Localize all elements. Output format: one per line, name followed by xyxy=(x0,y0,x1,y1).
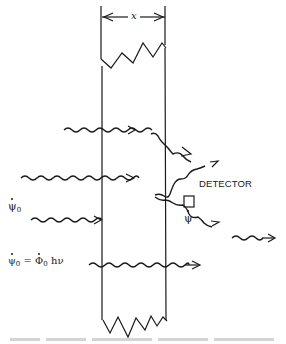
detected-flux-label: ψ xyxy=(184,212,193,225)
photon-uncollided-wave xyxy=(89,261,200,269)
detector-label: DETECTOR xyxy=(199,178,252,189)
slab-bottom-break xyxy=(103,316,167,337)
flux-subscript: 0 xyxy=(17,206,21,214)
photon-energy-term: hν xyxy=(51,255,64,266)
particle-flux-symbol: Φ xyxy=(35,255,43,266)
incident-flux-label: ψ0 xyxy=(8,200,21,214)
photon-absorbed-at-entry-wave xyxy=(31,216,102,224)
photon-transmitted-wave xyxy=(64,126,152,134)
photon-scattered-out-wave xyxy=(151,133,191,162)
slab-diagram xyxy=(0,0,286,344)
flux-symbol: ψ xyxy=(8,200,17,213)
detected-flux-symbol: ψ xyxy=(184,212,193,225)
detector-box xyxy=(184,196,194,207)
energy-flux-symbol: ψ xyxy=(8,255,16,266)
slab-left-edge xyxy=(101,6,102,320)
figure-caption-cutoff xyxy=(0,336,286,344)
particle-flux-subscript: 0 xyxy=(43,260,47,268)
energy-flux-subscript: 0 xyxy=(16,260,20,268)
equals-sign: = xyxy=(24,255,32,266)
energy-flux-relation: ψ0 = Φ0 hν xyxy=(8,255,63,268)
dimension-label-x: x xyxy=(130,10,138,21)
photon-exiting-wave xyxy=(232,234,275,242)
slab-top-break xyxy=(101,43,166,68)
photon-incident-long-wave xyxy=(21,174,139,182)
slab-right-edge xyxy=(165,6,166,320)
